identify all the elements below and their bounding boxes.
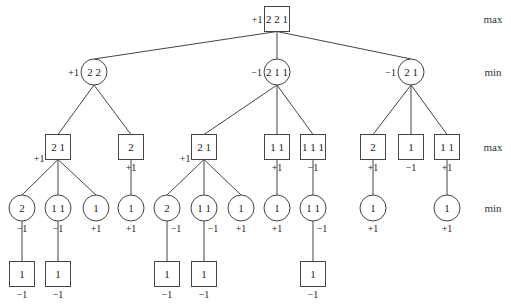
min-node: 1+1 — [360, 195, 386, 234]
minimax-value-label: −1 — [53, 223, 64, 234]
min-node: 2 2+1 — [68, 59, 107, 85]
node-state-label: 1 — [310, 268, 316, 280]
node-state-label: 1 1 — [440, 141, 454, 153]
max-node: 1−1 — [46, 262, 71, 300]
minimax-value-label: −1 — [251, 67, 262, 78]
tree-edge — [58, 85, 94, 135]
minimax-value-label: +1 — [34, 153, 45, 164]
node-state-label: 1 1 — [270, 141, 284, 153]
node-state-label: 2 2 1 — [266, 13, 288, 25]
minimax-value-label: +1 — [442, 223, 453, 234]
level-label-min: min — [484, 202, 502, 214]
minimax-value-label: −1 — [199, 289, 210, 300]
node-state-label: 1 — [370, 202, 376, 214]
min-node: 1+1 — [434, 195, 460, 234]
max-node: 2+1 — [119, 135, 144, 173]
node-state-label: 1 — [128, 202, 134, 214]
level-label-min: min — [484, 66, 502, 78]
minimax-value-label: +1 — [442, 162, 453, 173]
minimax-value-label: +1 — [91, 223, 102, 234]
tree-edge — [204, 85, 277, 135]
max-node: 2 1+1 — [34, 135, 71, 164]
node-state-label: 1 1 — [197, 202, 211, 214]
tree-edge — [277, 85, 313, 135]
min-node: 2−1 — [9, 195, 35, 234]
max-node: 1−1 — [301, 262, 326, 300]
min-node: 1+1 — [228, 195, 254, 234]
game-tree-diagram: 2 2 1+12 2+12 1 1−12 1−12 1+12+12 1+11 1… — [0, 0, 511, 304]
tree-edge — [373, 85, 411, 135]
minimax-value-label: −1 — [317, 223, 328, 234]
minimax-value-label: +1 — [252, 14, 263, 25]
node-state-label: 2 — [19, 202, 25, 214]
node-state-label: 1 — [164, 268, 170, 280]
node-state-label: 1 — [444, 202, 450, 214]
max-node: 2 1+1 — [180, 135, 217, 164]
minimax-value-label: −1 — [406, 162, 417, 173]
min-node: 1 1−1 — [45, 195, 71, 234]
tree-edge — [411, 85, 447, 135]
tree-nodes: 2 2 1+12 2+12 1 1−12 1−12 1+12+12 1+11 1… — [9, 7, 460, 300]
max-node: 1−1 — [10, 262, 35, 300]
max-node: 1 1+1 — [435, 135, 460, 173]
level-label-max: max — [484, 13, 503, 25]
node-state-label: 1 — [238, 202, 244, 214]
minimax-value-label: +1 — [368, 162, 379, 173]
max-node: 1−1 — [192, 262, 217, 300]
level-label-max: max — [484, 141, 503, 153]
minimax-value-label: +1 — [126, 162, 137, 173]
tree-edge — [277, 32, 411, 60]
max-node: 1−1 — [399, 135, 424, 173]
minimax-value-label: +1 — [368, 223, 379, 234]
minimax-value-label: +1 — [236, 223, 247, 234]
min-node: 2−1 — [154, 195, 181, 234]
tree-edge — [94, 32, 277, 60]
tree-edge — [22, 160, 58, 196]
node-state-label: 1 1 — [306, 202, 320, 214]
node-state-label: 1 — [408, 141, 414, 153]
min-node: 1 1−1 — [191, 195, 218, 234]
node-state-label: 2 2 — [87, 66, 101, 78]
minimax-value-label: −1 — [208, 223, 219, 234]
minimax-value-label: +1 — [126, 223, 137, 234]
max-node: 2 2 1+1 — [252, 7, 290, 32]
max-node: 1 1+1 — [265, 135, 290, 173]
minimax-value-label: +1 — [180, 153, 191, 164]
node-state-label: 2 1 — [404, 66, 418, 78]
node-state-label: 2 — [128, 141, 134, 153]
node-state-label: 1 — [274, 202, 280, 214]
minimax-value-label: −1 — [308, 289, 319, 300]
max-node: 2+1 — [361, 135, 386, 173]
max-node: 1−1 — [155, 262, 180, 300]
minimax-value-label: −1 — [17, 223, 28, 234]
max-node: 1 1 1−1 — [301, 135, 326, 173]
tree-edge — [204, 160, 241, 196]
min-node: 1+1 — [118, 195, 144, 234]
node-state-label: 1 — [55, 268, 61, 280]
node-state-label: 1 — [201, 268, 207, 280]
node-state-label: 1 — [19, 268, 25, 280]
level-labels: maxminmaxmin — [484, 13, 503, 214]
tree-edge — [58, 160, 96, 196]
minimax-value-label: −1 — [171, 223, 182, 234]
tree-edge — [94, 85, 131, 135]
minimax-value-label: −1 — [308, 162, 319, 173]
min-node: 2 1 1−1 — [251, 59, 290, 85]
minimax-value-label: +1 — [272, 162, 283, 173]
min-node: 1+1 — [264, 195, 290, 234]
minimax-value-label: −1 — [17, 289, 28, 300]
minimax-value-label: −1 — [385, 67, 396, 78]
node-state-label: 1 — [93, 202, 99, 214]
tree-edge — [167, 160, 204, 196]
node-state-label: 2 1 1 — [266, 66, 288, 78]
node-state-label: 2 1 — [51, 141, 65, 153]
minimax-value-label: +1 — [272, 223, 283, 234]
node-state-label: 2 — [370, 141, 376, 153]
minimax-value-label: +1 — [68, 67, 79, 78]
node-state-label: 1 1 1 — [302, 141, 324, 153]
node-state-label: 2 1 — [197, 141, 211, 153]
node-state-label: 1 1 — [51, 202, 65, 214]
node-state-label: 2 — [164, 202, 170, 214]
min-node: 1 1−1 — [300, 195, 327, 234]
min-node: 2 1−1 — [385, 59, 424, 85]
